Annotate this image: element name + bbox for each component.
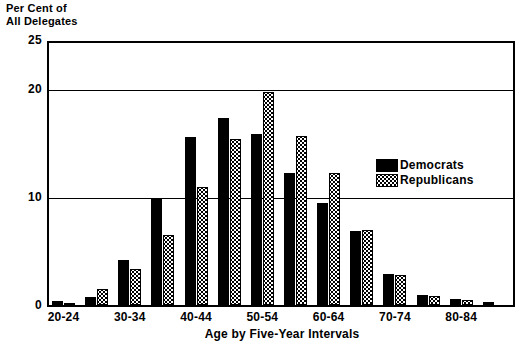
x-tick-label-50-54: 50-54 (246, 310, 278, 324)
bar-democrats-25-29 (85, 297, 96, 305)
bar-democrats-45-49 (218, 118, 229, 305)
bar-group-50-54 (251, 43, 284, 305)
bar-democrats-75-79 (417, 295, 428, 305)
x-tick-label-20-24: 20-24 (48, 310, 80, 324)
bar-democrats-35-39 (151, 198, 162, 305)
bar-group-20-24 (52, 43, 85, 305)
bar-republicans-25-29 (97, 289, 108, 305)
bar-group-30-34 (118, 43, 151, 305)
x-tick-label-40-44: 40-44 (180, 310, 212, 324)
y-tick-label-0: 0 (8, 298, 42, 312)
bar-democrats-80-84 (450, 299, 461, 305)
x-tick-label-80-84: 80-84 (445, 310, 477, 324)
age-distribution-bar-chart: Per Cent ofAll Delegates 25 20 10 0 20-2… (0, 0, 524, 346)
bar-democrats-40-44 (185, 137, 196, 305)
x-tick-label-70-74: 70-74 (379, 310, 411, 324)
bar-republicans-55-59 (296, 136, 307, 305)
bar-republicans-70-74 (395, 275, 406, 305)
bar-democrats-70-74 (383, 274, 394, 305)
bar-democrats-30-34 (118, 260, 129, 305)
bar-republicans-35-39 (163, 235, 174, 305)
bar-republicans-20-24 (64, 303, 75, 305)
bar-republicans-40-44 (197, 187, 208, 305)
bar-democrats-50-54 (251, 134, 262, 305)
bar-republicans-45-49 (230, 139, 241, 305)
bar-group-45-49 (218, 43, 251, 305)
bar-democrats-55-59 (284, 173, 295, 305)
legend-item-republicans: Republicans (376, 173, 474, 188)
chart-legend: Democrats Republicans (376, 158, 474, 188)
bar-republicans-60-64 (329, 173, 340, 305)
legend-item-democrats: Democrats (376, 158, 474, 173)
bar-group-85-89 (483, 43, 516, 305)
bar-democrats-85-89 (483, 302, 494, 305)
legend-swatch-republicans-icon (376, 174, 398, 187)
bar-republicans-50-54 (263, 92, 274, 305)
y-tick-label-10: 10 (8, 190, 42, 204)
bar-republicans-75-79 (429, 296, 440, 305)
y-axis-caption-line-1: Per Cent of (6, 2, 67, 14)
bar-group-35-39 (151, 43, 184, 305)
legend-label-democrats: Democrats (400, 158, 464, 173)
y-tick-label-20: 20 (8, 82, 42, 96)
x-axis-title: Age by Five-Year Intervals (0, 327, 524, 341)
bar-group-25-29 (85, 43, 118, 305)
bar-group-60-64 (317, 43, 350, 305)
y-axis-caption: Per Cent ofAll Delegates (6, 2, 78, 28)
bar-group-55-59 (284, 43, 317, 305)
x-tick-label-30-34: 30-34 (114, 310, 146, 324)
bar-group-40-44 (185, 43, 218, 305)
bar-republicans-80-84 (462, 300, 473, 305)
bar-republicans-65-69 (362, 230, 373, 305)
bar-democrats-65-69 (350, 231, 361, 305)
bar-democrats-20-24 (52, 301, 63, 305)
bar-republicans-30-34 (130, 269, 141, 305)
legend-swatch-democrats-icon (376, 159, 398, 172)
y-tick-label-25: 25 (8, 33, 42, 47)
bar-democrats-60-64 (317, 203, 328, 305)
legend-label-republicans: Republicans (400, 173, 474, 188)
x-tick-label-60-64: 60-64 (313, 310, 345, 324)
y-axis-caption-line-2: All Delegates (6, 15, 78, 27)
